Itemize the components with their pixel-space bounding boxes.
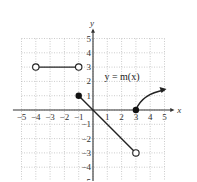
svg-text:3: 3 <box>134 112 139 122</box>
svg-text:−2: −2 <box>60 112 70 122</box>
svg-text:−1: −1 <box>81 119 91 129</box>
svg-text:1: 1 <box>105 112 110 122</box>
svg-text:−2: −2 <box>81 134 91 144</box>
piecewise-function-graph: −5−4−3−2−11234554321−1−2−3−4−5 x y y = m… <box>0 0 197 181</box>
tick-labels: −5−4−3−2−11234554321−1−2−3−4−5 <box>17 34 168 182</box>
svg-text:4: 4 <box>87 48 92 58</box>
y-axis-label: y <box>89 18 94 28</box>
svg-text:1: 1 <box>87 91 92 101</box>
svg-text:−4: −4 <box>81 162 91 172</box>
svg-text:−3: −3 <box>81 148 91 158</box>
svg-text:4: 4 <box>148 112 153 122</box>
function-label: y = m(x) <box>104 71 139 83</box>
svg-text:3: 3 <box>87 62 92 72</box>
svg-text:−5: −5 <box>81 177 91 182</box>
svg-text:5: 5 <box>87 34 92 44</box>
x-axis-label: x <box>176 105 181 115</box>
svg-text:2: 2 <box>119 112 124 122</box>
svg-text:2: 2 <box>87 76 92 86</box>
svg-text:−3: −3 <box>45 112 55 122</box>
svg-text:−4: −4 <box>31 112 41 122</box>
svg-text:5: 5 <box>162 112 167 122</box>
svg-text:−5: −5 <box>17 112 27 122</box>
